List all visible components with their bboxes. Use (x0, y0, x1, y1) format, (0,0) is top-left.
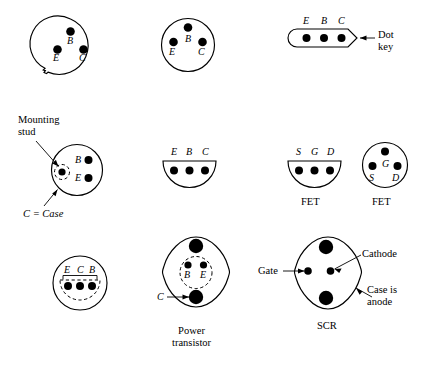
pin-dot-E (200, 261, 207, 268)
pin-dot-cathode (327, 267, 335, 275)
pin-label-S: S (369, 172, 374, 183)
pin-label-B: B (67, 35, 73, 46)
pin-dot-D (326, 167, 334, 175)
pin-dot-E (85, 174, 93, 182)
case-anode-callout: Case is anode (367, 284, 397, 308)
device-name-fet-right: FET (372, 196, 391, 208)
pin-label-C: C (79, 52, 86, 63)
device-name-scr: SCR (317, 320, 337, 332)
pin-label-D: D (327, 146, 334, 157)
device-name-fet-left: FET (301, 196, 320, 208)
dot-key-leader-arrow (360, 35, 375, 40)
pin-dot-C (76, 282, 84, 290)
pin-dot-C (201, 167, 209, 175)
case-leader (44, 190, 58, 207)
pin-dot-B (184, 23, 193, 32)
pin-label-B: B (321, 15, 327, 26)
pin-dot-G (381, 148, 389, 156)
pin-dot-D (394, 162, 402, 170)
pin-label-E: E (169, 46, 175, 57)
to5-tab-outline (30, 16, 88, 74)
pin-dot-gate (304, 267, 312, 275)
dot-key-callout: Dot key (378, 29, 394, 53)
pin-dot-E (169, 38, 178, 47)
pin-label-C: C (198, 46, 205, 57)
mounting-hole-top (189, 239, 203, 253)
pin-label-C: C (338, 15, 345, 26)
device-to5-tab-npn (30, 16, 88, 74)
pin-label-E: E (75, 172, 81, 183)
pin-label-G: G (311, 146, 318, 157)
device-power-transistor (163, 237, 230, 307)
pin-dot-E (170, 167, 178, 175)
mounting-hole-top (319, 240, 333, 254)
mounting-hole-bottom (319, 291, 333, 305)
mounting-stud-leader (36, 141, 59, 167)
pin-label-B: B (186, 146, 192, 157)
pin-label-B: B (184, 269, 190, 280)
pin-label-C: C (77, 264, 84, 275)
pin-dot-E (64, 282, 72, 290)
mounting-hole-bottom-C (189, 290, 203, 304)
pin-label-C: C (202, 146, 209, 157)
pin-label-B: B (75, 154, 81, 165)
pin-dot-S (369, 162, 377, 170)
pin-dot-B (184, 261, 191, 268)
mounting-stud-dot (58, 168, 65, 175)
pin-label-B: B (185, 33, 191, 44)
pin-label-E: E (53, 52, 59, 63)
pin-dot-E (303, 34, 311, 42)
case-callout: C = Case (23, 208, 63, 220)
device-to5-plain-npn (162, 19, 215, 72)
pin-label-D: D (392, 172, 399, 183)
pin-label-G: G (382, 158, 389, 169)
pin-dot-B (85, 156, 93, 164)
pin-dot-B (320, 34, 328, 42)
figure-vector-layer (0, 0, 422, 365)
mounting-stud-callout: Mounting stud (18, 114, 59, 138)
device-scr (283, 237, 372, 309)
pin-label-C: C (157, 291, 164, 302)
pin-label-S: S (296, 146, 301, 157)
device-d-package-transistor (163, 161, 216, 188)
device-inline-dot-key (288, 29, 375, 47)
transistor-pinout-figure: B E C B E C E B C Dot key Mounting stud … (0, 0, 422, 365)
pin-label-E: E (171, 146, 177, 157)
pin-label-E: E (303, 15, 309, 26)
pin-label-E: E (64, 264, 70, 275)
pin-dot-G (311, 167, 319, 175)
pin-label-B: B (89, 264, 95, 275)
pin-label-E: E (200, 269, 206, 280)
device-stud-mount-transistor (36, 141, 103, 206)
pin-dot-B (88, 282, 96, 290)
device-fet-d-package (288, 161, 341, 188)
device-name-power-transistor: Power transistor (172, 325, 211, 349)
cathode-callout: Cathode (362, 248, 397, 260)
gate-callout: Gate (258, 265, 278, 277)
pin-dot-D (198, 38, 207, 47)
pin-dot-B (186, 167, 194, 175)
pin-dot-S (295, 167, 303, 175)
pin-dot-C (338, 34, 346, 42)
